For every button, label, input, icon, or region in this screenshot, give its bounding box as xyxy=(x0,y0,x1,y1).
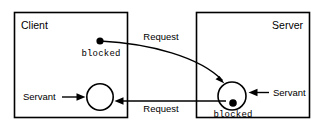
client-blocked-dot xyxy=(96,37,103,44)
client-servant-circle xyxy=(87,84,113,110)
client-blocked-label: blocked xyxy=(81,49,120,59)
server-blocked-dot xyxy=(229,99,237,107)
request-label-incoming: Request xyxy=(143,103,179,114)
client-box-title: Client xyxy=(21,19,48,31)
servant-label-client: Servant xyxy=(23,91,56,102)
server-blocked-label: blocked xyxy=(213,110,252,120)
server-box-title: Server xyxy=(272,19,303,31)
diagram-canvas: Client Server Request blocked blocked Re… xyxy=(0,0,330,133)
client-server-diagram: Client Server Request blocked blocked Re… xyxy=(0,0,330,133)
servant-label-server: Servant xyxy=(273,87,306,98)
request-label-outgoing: Request xyxy=(143,31,179,42)
